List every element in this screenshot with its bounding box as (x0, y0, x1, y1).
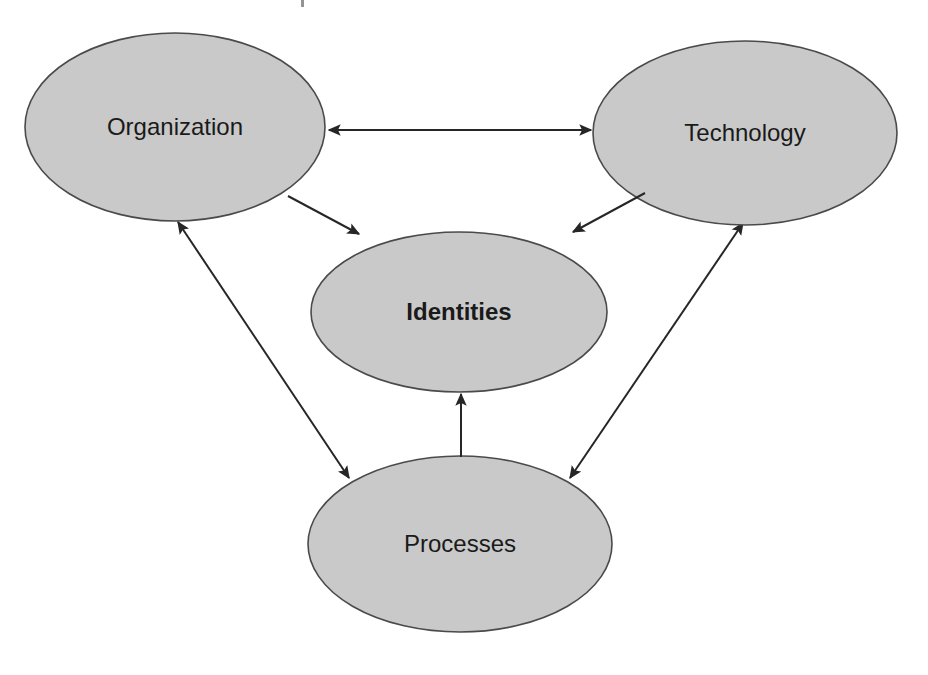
edge-technology-processes[interactable] (570, 223, 743, 478)
node-identities[interactable]: Identities (311, 232, 607, 392)
edge-organization-processes[interactable] (178, 222, 349, 478)
identities-label: Identities (406, 298, 511, 325)
node-processes[interactable]: Processes (308, 456, 612, 632)
processes-label: Processes (404, 530, 516, 557)
scan-artifact-speck (301, 0, 304, 7)
diagram-canvas: Organization Technology Processes Identi… (0, 0, 928, 675)
diagram-svg: Organization Technology Processes Identi… (0, 0, 928, 675)
organization-label: Organization (107, 113, 243, 140)
edge-technology-identities[interactable] (573, 193, 645, 232)
edge-organization-identities[interactable] (288, 196, 359, 234)
technology-label: Technology (684, 119, 805, 146)
node-organization[interactable]: Organization (25, 33, 325, 221)
